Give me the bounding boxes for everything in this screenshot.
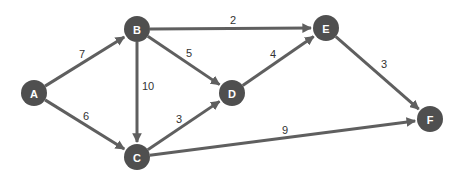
edge-weight-c-d: 3: [176, 113, 182, 125]
node-label: B: [133, 24, 141, 36]
node-a: A: [21, 80, 47, 106]
node-d: D: [219, 80, 245, 106]
edge-weight-d-e: 4: [270, 48, 276, 60]
edge-b-d: [148, 36, 220, 84]
node-label: C: [133, 152, 141, 164]
edge-b-e: [150, 28, 311, 29]
nodes-layer: ABCDEF: [21, 15, 443, 170]
node-b: B: [124, 16, 150, 42]
edge-weight-b-c: 10: [142, 80, 154, 92]
graph-diagram: 7625103439 ABCDEF: [0, 0, 456, 186]
node-f: F: [417, 106, 443, 132]
edge-a-b: [45, 37, 124, 86]
edge-weight-b-d: 5: [186, 47, 192, 59]
node-label: F: [427, 114, 434, 126]
edge-weight-c-f: 9: [282, 124, 288, 136]
edge-weight-a-c: 6: [83, 110, 89, 122]
edge-weight-a-b: 7: [79, 48, 85, 60]
node-label: D: [228, 88, 236, 100]
node-e: E: [313, 15, 339, 41]
edge-e-f: [336, 37, 419, 110]
edge-weight-e-f: 3: [381, 58, 387, 70]
node-label: E: [322, 23, 329, 35]
edge-weight-b-e: 2: [230, 14, 236, 26]
edge-a-c: [45, 100, 124, 149]
node-c: C: [124, 144, 150, 170]
node-label: A: [30, 88, 38, 100]
edge-d-e: [243, 37, 314, 86]
edge-c-d: [148, 101, 220, 149]
